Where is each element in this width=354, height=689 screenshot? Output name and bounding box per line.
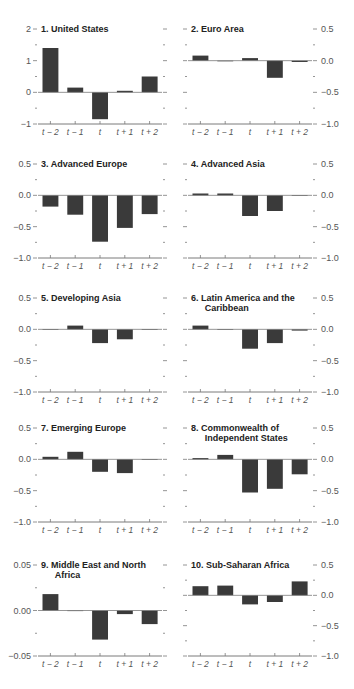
panel-title: 7. Emerging Europe — [41, 423, 126, 433]
panel-2: t − 2t − 1tt + 1t + 2−1.0−0.50.00.52. Eu… — [183, 24, 339, 137]
x-tick-label: t − 1 — [67, 261, 84, 271]
bar — [43, 48, 59, 92]
y-tick-label: 0.5 — [18, 293, 31, 303]
x-tick-label: t + 1 — [116, 261, 133, 271]
y-tick-label: −0.5 — [13, 222, 31, 232]
y-tick-label: 0.0 — [18, 454, 31, 464]
panel-title: 10. Sub-Saharan Africa — [191, 560, 290, 570]
x-tick-label: t + 2 — [291, 659, 308, 669]
x-tick-label: t − 2 — [42, 525, 59, 535]
x-tick-label: t + 2 — [291, 127, 308, 137]
x-tick-label: t — [99, 525, 102, 535]
x-tick-label: t — [249, 395, 252, 405]
y-tick-label: 0.05 — [13, 560, 31, 570]
y-tick-label: 0.5 — [321, 24, 334, 34]
bar — [43, 457, 59, 460]
y-tick-label: 1 — [26, 56, 31, 66]
x-tick-label: t − 1 — [67, 395, 84, 405]
y-tick-label: 0.5 — [321, 159, 334, 169]
panel-4: t − 2t − 1tt + 1t + 2−1.0−0.50.00.54. Ad… — [183, 159, 339, 271]
bar — [242, 195, 258, 216]
panel-title: Africa — [55, 570, 82, 580]
bar — [92, 611, 108, 640]
y-tick-label: −1.0 — [321, 517, 339, 527]
panel-10: t − 2t − 1tt + 1t + 2−1.0−0.50.00.510. S… — [183, 560, 339, 669]
x-tick-label: t — [249, 525, 252, 535]
x-tick-label: t − 2 — [42, 659, 59, 669]
y-tick-label: 0.0 — [321, 590, 334, 600]
bar — [267, 195, 283, 211]
panel-9: t − 2t − 1tt + 1t + 2−0.050.000.059. Mid… — [8, 560, 167, 669]
x-tick-label: t — [99, 659, 102, 669]
x-tick-label: t + 1 — [266, 525, 283, 535]
bar — [67, 88, 83, 93]
chart-grid: t − 2t − 1tt + 1t + 2−10121. United Stat… — [0, 0, 354, 689]
x-tick-label: t − 2 — [192, 395, 209, 405]
x-tick-label: t + 1 — [116, 127, 133, 137]
x-tick-label: t — [99, 261, 102, 271]
panel-6: t − 2t − 1tt + 1t + 2−1.0−0.50.00.56. La… — [183, 293, 339, 405]
x-tick-label: t − 1 — [67, 659, 84, 669]
bar — [267, 459, 283, 489]
x-tick-label: t — [99, 395, 102, 405]
x-tick-label: t — [99, 127, 102, 137]
panel-title: 1. United States — [41, 24, 109, 34]
bar — [242, 595, 258, 604]
y-tick-label: 0.0 — [321, 56, 334, 66]
x-tick-label: t − 1 — [217, 525, 234, 535]
x-tick-label: t + 1 — [116, 395, 133, 405]
bar — [67, 326, 83, 330]
x-tick-label: t + 2 — [291, 395, 308, 405]
bar — [43, 195, 59, 206]
y-tick-label: 0.0 — [321, 454, 334, 464]
panel-title: 2. Euro Area — [191, 24, 245, 34]
panel-title: 5. Developing Asia — [41, 293, 122, 303]
y-tick-label: −0.5 — [321, 87, 339, 97]
y-tick-label: 0.0 — [321, 190, 334, 200]
y-tick-label: −1.0 — [321, 119, 339, 129]
bar — [267, 61, 283, 78]
y-tick-label: −1.0 — [321, 253, 339, 263]
x-tick-label: t − 1 — [217, 127, 234, 137]
x-tick-label: t − 2 — [42, 395, 59, 405]
x-tick-label: t − 2 — [192, 261, 209, 271]
bar — [117, 195, 133, 228]
bar — [92, 459, 108, 472]
bar — [67, 195, 83, 214]
bar — [43, 594, 59, 610]
panel-8: t − 2t − 1tt + 1t + 2−1.0−0.50.00.58. Co… — [183, 423, 339, 535]
y-tick-label: 0 — [26, 87, 31, 97]
panel-7: t − 2t − 1tt + 1t + 2−1.0−0.50.00.57. Em… — [13, 423, 167, 535]
y-tick-label: −0.5 — [321, 356, 339, 366]
x-tick-label: t − 2 — [42, 127, 59, 137]
x-tick-label: t − 1 — [67, 127, 84, 137]
bar — [193, 326, 209, 330]
x-tick-label: t + 1 — [116, 525, 133, 535]
panel-title: Caribbean — [205, 303, 249, 313]
bar — [142, 77, 158, 93]
y-tick-label: −1.0 — [13, 253, 31, 263]
panel-5: t − 2t − 1tt + 1t + 2−1.0−0.50.00.55. De… — [13, 293, 167, 405]
bar — [267, 595, 283, 602]
y-tick-label: −1.0 — [321, 651, 339, 661]
bar — [92, 195, 108, 241]
y-tick-label: −1.0 — [321, 387, 339, 397]
bar — [142, 195, 158, 214]
x-tick-label: t + 2 — [141, 659, 158, 669]
y-tick-label: 0.0 — [321, 324, 334, 334]
y-tick-label: 0.5 — [18, 159, 31, 169]
bar — [117, 329, 133, 339]
y-tick-label: −0.5 — [321, 486, 339, 496]
x-tick-label: t − 1 — [67, 525, 84, 535]
panel-title: Independent States — [205, 433, 288, 443]
panel-1: t − 2t − 1tt + 1t + 2−10121. United Stat… — [21, 24, 167, 137]
panel-3: t − 2t − 1tt + 1t + 2−1.0−0.50.00.53. Ad… — [13, 159, 167, 271]
y-tick-label: 0.5 — [321, 560, 334, 570]
bar — [242, 459, 258, 492]
x-tick-label: t − 2 — [192, 659, 209, 669]
y-tick-label: −0.5 — [13, 356, 31, 366]
x-tick-label: t − 2 — [192, 525, 209, 535]
x-tick-label: t − 2 — [192, 127, 209, 137]
y-tick-label: 0.0 — [18, 190, 31, 200]
y-tick-label: 0.00 — [13, 606, 31, 616]
